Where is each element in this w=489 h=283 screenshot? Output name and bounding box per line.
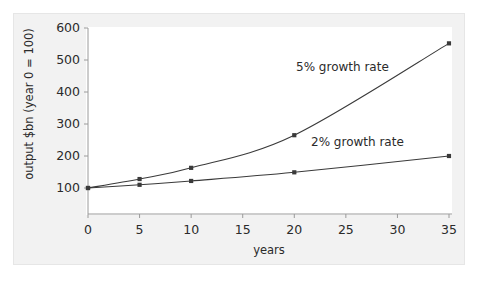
data-series bbox=[86, 41, 451, 190]
x-tick-label: 10 bbox=[176, 224, 206, 237]
x-axis-title: years bbox=[86, 243, 452, 257]
y-tick-label: 600 bbox=[46, 22, 80, 35]
y-tick-label: 200 bbox=[46, 150, 80, 163]
x-tick-label: 5 bbox=[125, 224, 155, 237]
annotation-leaders bbox=[385, 58, 412, 73]
series-label-2-percent: 2% growth rate bbox=[311, 135, 404, 149]
x-tick-label: 0 bbox=[73, 224, 103, 237]
x-tick-label: 25 bbox=[331, 224, 361, 237]
y-tick-label: 500 bbox=[46, 54, 80, 67]
y-axis-title: output $bn (year 0 = 100) bbox=[22, 19, 36, 189]
y-tick-label: 400 bbox=[46, 86, 80, 99]
axes bbox=[84, 28, 452, 218]
y-tick-label: 100 bbox=[46, 182, 80, 195]
chart-figure: 100200300400500600 05101520253035 output… bbox=[0, 0, 489, 283]
series-label-5-percent: 5% growth rate bbox=[296, 60, 389, 74]
x-tick-label: 35 bbox=[434, 224, 464, 237]
x-tick-label: 30 bbox=[382, 224, 412, 237]
y-tick-label: 300 bbox=[46, 118, 80, 131]
x-tick-label: 15 bbox=[228, 224, 258, 237]
chart-canvas bbox=[0, 0, 489, 283]
x-tick-label: 20 bbox=[279, 224, 309, 237]
